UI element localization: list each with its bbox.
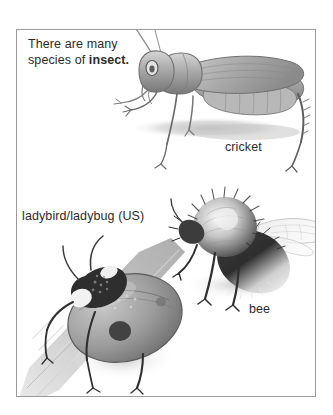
bee-antenna xyxy=(171,199,183,223)
caption-text: There are many species of insect. xyxy=(28,36,158,68)
ladybird-spot xyxy=(156,298,166,307)
ladybird-spot xyxy=(109,321,131,341)
ladybird-antenna xyxy=(91,236,104,270)
bee-illustration xyxy=(167,185,316,330)
label-cricket: cricket xyxy=(225,139,262,155)
label-ladybird: ladybird/ladybug (US) xyxy=(22,208,144,224)
label-bee: bee xyxy=(249,301,270,317)
caption-bold-term: insect. xyxy=(89,53,129,67)
illustration-panel: There are many species of insect. cricke… xyxy=(16,29,316,397)
bee-foreleg xyxy=(179,245,197,273)
